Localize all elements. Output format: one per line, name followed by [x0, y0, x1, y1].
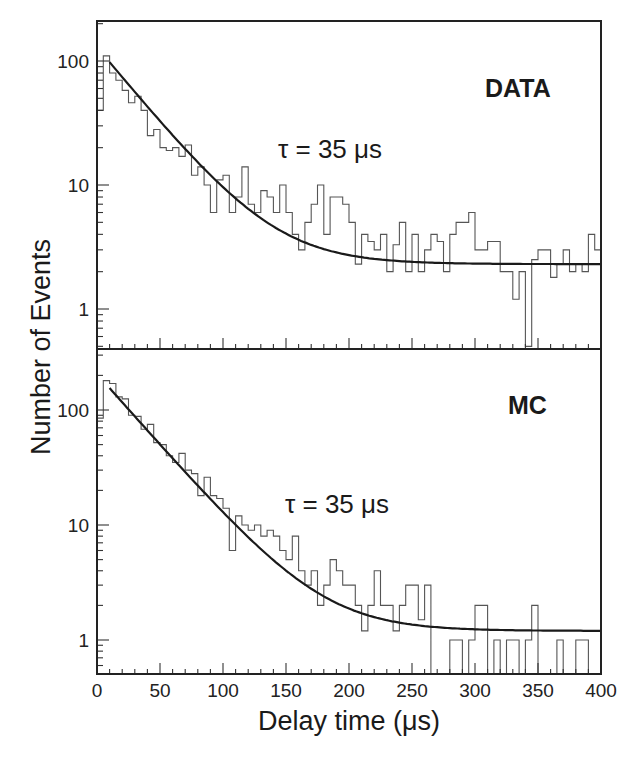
x-axis-tick-labels: 050100150200250300350400 — [92, 680, 617, 701]
x-tick-label: 400 — [585, 680, 617, 701]
mc-y-axis-ticks: 110100 — [57, 355, 109, 665]
x-tick-label: 250 — [396, 680, 428, 701]
x-axis-title: Delay time (μs) — [258, 706, 440, 736]
data-panel-label: DATA — [485, 74, 551, 102]
y-axis-title: Number of Events — [26, 239, 56, 455]
y-tick-label: 10 — [68, 175, 89, 196]
x-tick-label: 350 — [522, 680, 554, 701]
x-tick-label: 300 — [459, 680, 491, 701]
x-tick-label: 150 — [270, 680, 302, 701]
decay-time-chart: 110100 DATA τ = 35 μs 110100 MC τ = 35 μ… — [0, 0, 634, 764]
x-tick-label: 200 — [333, 680, 365, 701]
data-y-axis-ticks: 110100 — [57, 24, 109, 347]
y-tick-label: 100 — [57, 400, 89, 421]
mc-tau-annotation: τ = 35 μs — [285, 489, 389, 519]
y-tick-label: 10 — [68, 515, 89, 536]
y-tick-label: 1 — [78, 299, 89, 320]
data-tau-annotation: τ = 35 μs — [278, 134, 382, 164]
x-tick-label: 0 — [92, 680, 103, 701]
x-tick-label: 100 — [207, 680, 239, 701]
data-panel: 110100 DATA τ = 35 μs — [57, 24, 601, 349]
mc-panel-label: MC — [508, 391, 547, 419]
mc-panel: 110100 MC τ = 35 μs — [57, 355, 601, 674]
y-tick-label: 100 — [57, 51, 89, 72]
x-tick-label: 50 — [149, 680, 170, 701]
y-tick-label: 1 — [78, 630, 89, 651]
